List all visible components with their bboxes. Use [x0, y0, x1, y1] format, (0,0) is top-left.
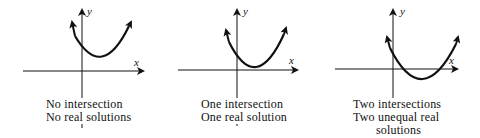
curve-right-arrow	[284, 28, 286, 34]
y-axis-label: y	[87, 5, 92, 17]
parabola-curve	[390, 44, 456, 79]
caption-line-2: One real solution	[200, 111, 288, 124]
curve-left-arrow	[72, 22, 75, 36]
parabola-curve	[75, 26, 129, 57]
curve-left-arrow	[226, 30, 229, 42]
caption-line-2: No real solutions	[45, 111, 132, 124]
curve-right-arrow	[456, 37, 458, 44]
x-axis-label: x	[449, 54, 454, 66]
caption-line-3: solutions	[375, 124, 422, 137]
panel-two-intersections	[335, 10, 458, 98]
curve-right-arrow	[129, 22, 131, 26]
curve-left-arrow	[387, 37, 390, 48]
x-axis-label: x	[134, 56, 139, 68]
y-axis-label: y	[400, 5, 405, 17]
x-axis-label: x	[289, 54, 294, 66]
y-axis-label: y	[243, 5, 248, 17]
